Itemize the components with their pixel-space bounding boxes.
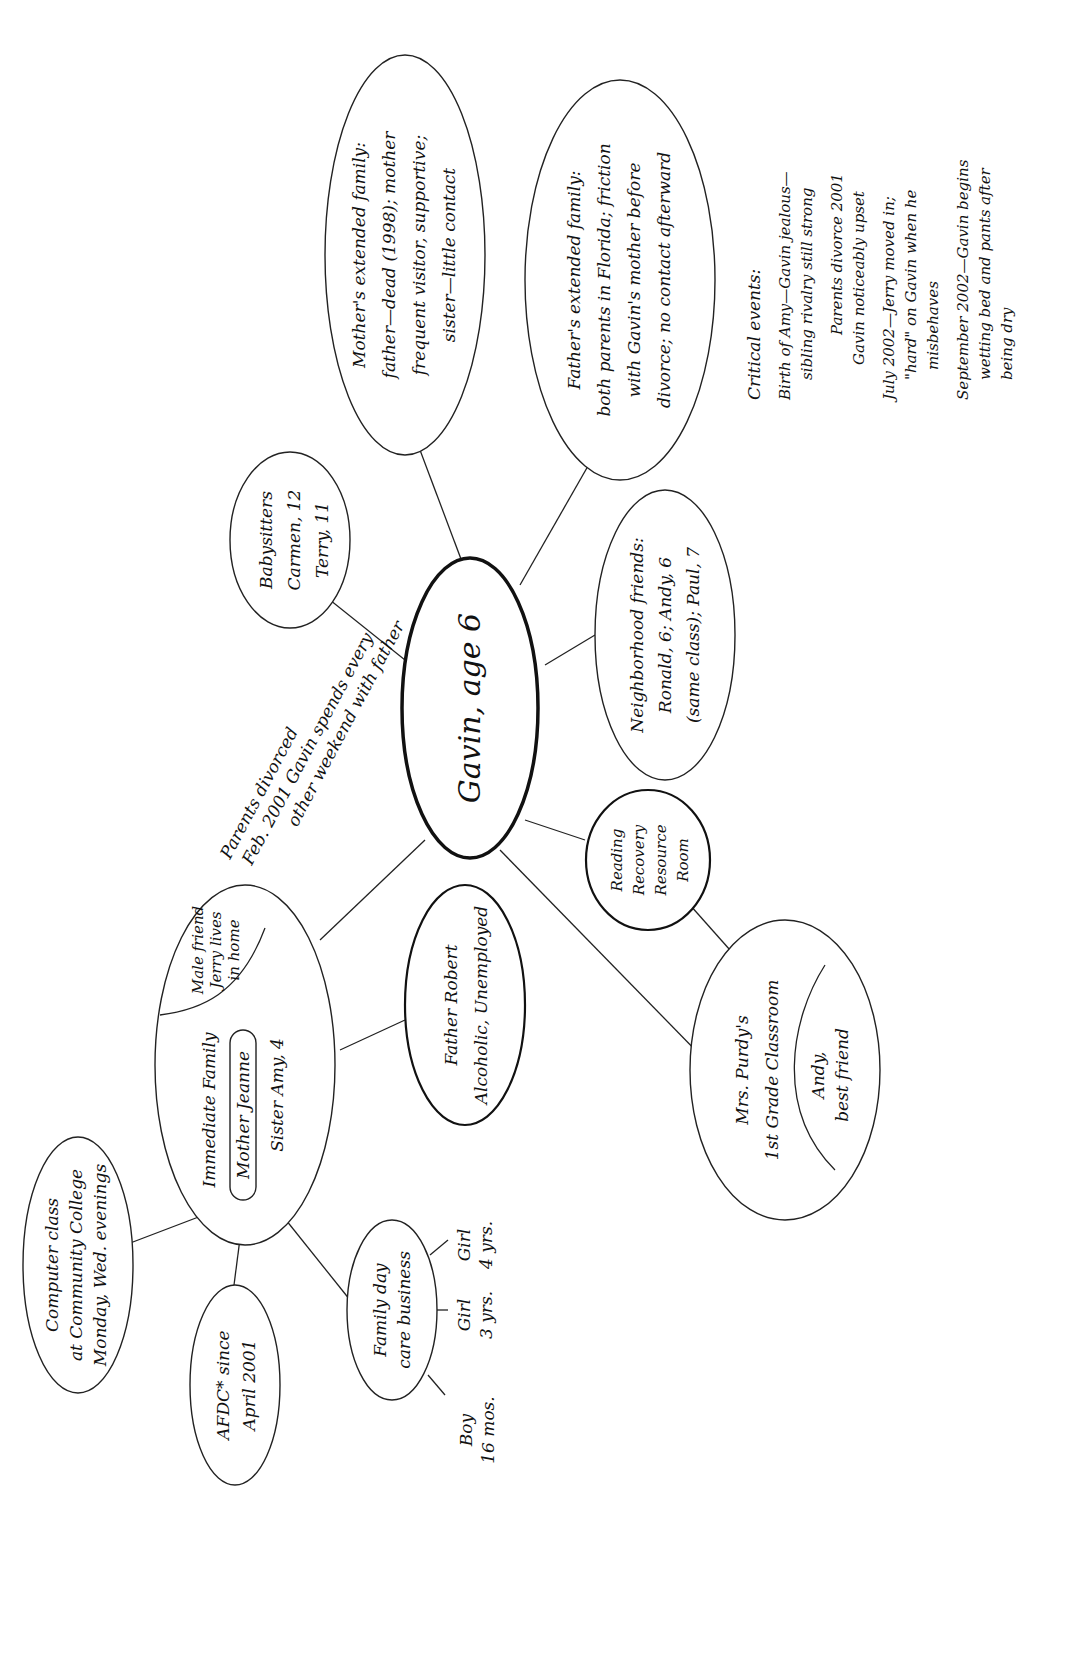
line-center-neighborhood [545, 635, 595, 665]
event-3-line-2: "hard" on Gavin when he [902, 190, 920, 380]
event-3-line-1: July 2002—Jerry moved in; [880, 196, 898, 403]
node-reading-recovery: Reading Recovery Resource Room [586, 790, 710, 930]
neighborhood-line-2: Ronald, 6; Andy, 6 [655, 557, 675, 714]
classroom-line-2: 1st Grade Classroom [762, 980, 782, 1161]
line-daycare-boy [428, 1375, 445, 1395]
computer-line-1: Computer class [42, 1198, 62, 1332]
babysitters-title: Babysitters [256, 491, 276, 590]
daycare-child-girl-3: Girl 3 yrs. [454, 1291, 496, 1339]
reading-line-1: Reading [608, 829, 626, 893]
node-neighborhood-friends: Neighborhood friends: Ronald, 6; Andy, 6… [595, 490, 735, 780]
event-2-line-2: Gavin noticeably upset [850, 190, 868, 365]
event-2-line-1: Parents divorce 2001 [828, 173, 846, 336]
male-friend-line-1: Male friend [189, 906, 207, 995]
daycare-oval [347, 1220, 437, 1400]
fathers-family-line-1: Father's extended family: [564, 170, 584, 390]
classroom-line-1: Mrs. Purdy's [732, 1015, 752, 1126]
node-classroom: Mrs. Purdy's 1st Grade Classroom Andy, b… [690, 920, 880, 1220]
event-1-line-1: Birth of Amy—Gavin jealous— [776, 171, 794, 401]
node-mothers-extended-family: Mother's extended family: father—dead (1… [325, 55, 485, 455]
father-line-1: Father Robert [441, 944, 461, 1066]
sister-label: Sister Amy, 4 [267, 1038, 287, 1152]
divorce-note-line-3: other weekend with father [283, 617, 409, 830]
node-family-day-care: Family day care business Boy 16 mos. Gir… [347, 1220, 498, 1464]
father-oval [405, 885, 525, 1125]
daycare-line-1: Family day [370, 1263, 390, 1358]
node-afdc: AFDC* since April 2001 [190, 1285, 280, 1485]
afdc-oval [190, 1285, 280, 1485]
node-father-robert: Father Robert Alcoholic, Unemployed [405, 885, 525, 1125]
father-line-2: Alcoholic, Unemployed [471, 906, 491, 1107]
fathers-family-oval [525, 80, 715, 480]
afdc-line-2: April 2001 [239, 1340, 259, 1433]
line-center-mothers-family [420, 450, 467, 575]
event-3-line-3: misbehaves [924, 281, 942, 370]
daycare-child-girl-4: Girl 4 yrs. [454, 1221, 496, 1270]
male-friend-line-2: Jerry lives [207, 911, 225, 991]
fathers-family-line-4: divorce; no contact afterward [654, 152, 674, 408]
child-boy-label: Boy [456, 1413, 476, 1447]
divorce-note: Parents divorced Feb. 2001 Gavin spends … [215, 596, 408, 883]
computer-line-2: at Community College [66, 1169, 86, 1361]
divorce-note-line-2: Feb. 2001 Gavin spends every [237, 629, 377, 869]
reading-line-4: Room [674, 838, 692, 883]
child-boy-age: 16 mos. [478, 1396, 498, 1464]
computer-line-3: Monday, Wed. evenings [90, 1164, 110, 1368]
male-friend-line-3: in home [225, 919, 243, 980]
line-reading-classroom [690, 905, 730, 950]
reading-line-3: Resource [652, 824, 670, 896]
node-babysitters: Babysitters Carmen, 12 Terry, 11 [230, 452, 350, 628]
mothers-family-line-1: Mother's extended family: [349, 142, 369, 369]
mothers-family-line-2: father—dead (1998); mother [379, 131, 399, 381]
babysitter-2: Terry, 11 [312, 502, 332, 578]
node-computer-class: Computer class at Community College Mond… [23, 1137, 133, 1393]
line-center-family [320, 840, 425, 940]
babysitter-1: Carmen, 12 [284, 490, 304, 591]
event-4-line-2: wetting bed and pants after [976, 167, 994, 380]
node-fathers-extended-family: Father's extended family: both parents i… [525, 80, 715, 480]
afdc-line-1: AFDC* since [213, 1330, 233, 1441]
line-center-reading [525, 820, 585, 840]
neighborhood-title: Neighborhood friends: [627, 537, 647, 733]
reading-line-2: Recovery [630, 824, 648, 896]
mothers-family-line-3: frequent visitor, supportive; [409, 135, 429, 377]
child-girl3-label: Girl [454, 1299, 474, 1332]
neighborhood-line-3: (same class); Paul, 7 [683, 547, 703, 723]
child-girl4-age: 4 yrs. [476, 1221, 496, 1270]
daycare-line-2: care business [394, 1251, 414, 1369]
fathers-family-line-3: with Gavin's mother before [624, 162, 644, 397]
immediate-family-title: Immediate Family [199, 1032, 219, 1189]
center-label: Gavin, age 6 [452, 613, 487, 803]
line-family-father [340, 1020, 405, 1050]
critical-events-title: Critical events: [744, 269, 764, 400]
andy-line-1: Andy, [808, 1052, 828, 1101]
child-girl4-label: Girl [454, 1229, 474, 1262]
node-center-gavin: Gavin, age 6 [402, 558, 538, 858]
mothers-family-line-4: sister—little contact [439, 168, 459, 343]
event-4-line-3: being dry [998, 307, 1016, 380]
critical-events: Critical events: Birth of Amy—Gavin jeal… [744, 159, 1016, 403]
event-1-line-2: sibling rivalry still strong [798, 188, 816, 380]
fathers-family-line-2: both parents in Florida; friction [594, 143, 614, 416]
daycare-child-boy: Boy 16 mos. [456, 1396, 498, 1464]
mother-label: Mother Jeanne [233, 1051, 253, 1180]
child-girl3-age: 3 yrs. [476, 1291, 496, 1339]
line-daycare-girl4 [430, 1240, 448, 1255]
event-4-line-1: September 2002—Gavin begins [954, 159, 972, 400]
andy-line-2: best friend [832, 1028, 852, 1122]
node-immediate-family: Male friend Jerry lives in home Immediat… [155, 885, 335, 1245]
ecomap-diagram: Mother's extended family: father—dead (1… [0, 0, 1076, 1670]
